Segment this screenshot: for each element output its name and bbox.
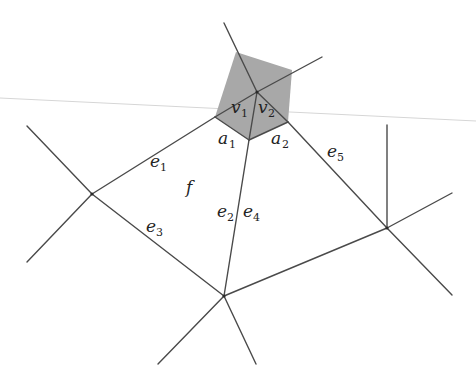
svg-text:3: 3 <box>156 226 163 239</box>
svg-text:2: 2 <box>282 138 289 151</box>
svg-text:4: 4 <box>253 211 260 224</box>
edge-left-upper-spoke <box>27 126 92 194</box>
svg-text:v: v <box>231 97 241 117</box>
vertex-bottom <box>222 294 225 297</box>
svg-text:e: e <box>217 201 227 221</box>
svg-text:f: f <box>184 177 195 197</box>
svg-text:1: 1 <box>229 138 236 151</box>
vertex-right <box>385 226 388 229</box>
svg-text:5: 5 <box>337 151 344 164</box>
label-a2: a 2 <box>271 128 289 151</box>
label-e4: e 4 <box>243 201 260 224</box>
svg-text:e: e <box>146 216 156 236</box>
svg-text:2: 2 <box>268 107 275 120</box>
edge-bottom-left-spoke <box>158 296 224 364</box>
svg-text:1: 1 <box>160 161 167 174</box>
edge-left-lower-spoke <box>27 194 92 262</box>
label-e1: e 1 <box>150 151 167 174</box>
svg-text:v: v <box>258 97 268 117</box>
label-e5: e 5 <box>327 141 344 164</box>
svg-text:e: e <box>327 141 337 161</box>
svg-text:a: a <box>271 128 281 148</box>
label-e2: e 2 <box>217 201 234 224</box>
svg-text:1: 1 <box>241 107 248 120</box>
vertex-center <box>255 90 258 93</box>
label-a1: a 1 <box>218 128 236 151</box>
svg-text:e: e <box>243 201 253 221</box>
edge-e5 <box>288 122 387 228</box>
edge-bottom-right-spoke <box>224 296 256 364</box>
shaded-region <box>215 52 292 140</box>
vertex-left <box>90 192 93 195</box>
edge-right-upper-spoke <box>387 193 452 228</box>
svg-text:e: e <box>150 151 160 171</box>
edge-right-lower-spoke <box>387 228 452 295</box>
svg-text:2: 2 <box>227 211 234 224</box>
label-f: f <box>184 177 195 197</box>
edge-e3 <box>92 194 224 296</box>
edge-bottom-right <box>224 228 387 296</box>
planar-graph-diagram: v 1 v 2 a 1 a 2 e 1 f e 2 e 4 e 3 e 5 <box>0 0 476 384</box>
label-e3: e 3 <box>146 216 163 239</box>
svg-text:a: a <box>218 128 228 148</box>
